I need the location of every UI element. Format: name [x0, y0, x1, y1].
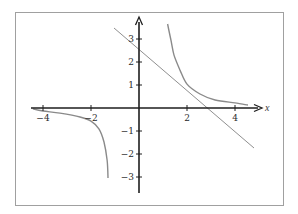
- x-tick-label: 2: [184, 113, 190, 123]
- y-tick-label: 2: [128, 57, 134, 67]
- y-tick-label: 1: [128, 80, 134, 90]
- chart-canvas: x −4−224 321−1−2−3: [0, 0, 298, 214]
- x-axis-label: x: [264, 102, 270, 113]
- x-tick-label: 4: [232, 113, 238, 123]
- y-tick-label: −1: [121, 126, 134, 136]
- chart-frame: [16, 13, 284, 206]
- y-tick-label: 3: [128, 34, 134, 44]
- y-tick-label: −2: [121, 149, 134, 159]
- y-tick-label: −3: [121, 172, 135, 182]
- x-tick-label: −2: [84, 113, 97, 123]
- x-tick-label: −4: [36, 113, 50, 123]
